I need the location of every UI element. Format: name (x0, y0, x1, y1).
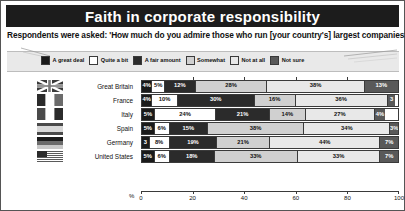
segment-value: 15% (183, 126, 195, 132)
bar-segment: 33% (215, 151, 298, 162)
top-axis-tick (244, 77, 245, 80)
bar-segment: 4% (375, 109, 385, 120)
table-row: 5%6%18%33%33%7% (141, 150, 399, 163)
segment-value: 4% (142, 83, 150, 89)
bar-segment: 21% (216, 109, 270, 120)
top-axis-tick (193, 77, 194, 80)
country-label: France (113, 97, 133, 104)
segment-value: 3 (390, 97, 393, 103)
bar-segment: 30% (178, 95, 255, 106)
bar-segment: 36% (296, 95, 388, 106)
bar-rows: 4%5%12%28%38%13%4%10%30%16%36%35%24%21%1… (141, 80, 399, 165)
segment-value: 5% (144, 112, 152, 118)
country-label-row: Italy (1, 108, 137, 121)
table-row: 5%6%15%38%34%3% (141, 122, 399, 135)
segment-value: 16% (269, 97, 281, 103)
bar-segment: 3 (142, 137, 150, 148)
segment-value: 5% (154, 83, 162, 89)
segment-value: 10% (159, 97, 171, 103)
bar-segment: 5% (142, 123, 155, 134)
segment-value: 30% (210, 97, 222, 103)
bar-segment: 33% (298, 151, 381, 162)
segment-value: 5% (144, 126, 152, 132)
country-label-row: France (1, 94, 137, 107)
segment-value: 36% (335, 97, 347, 103)
segment-value: 7% (385, 154, 393, 160)
legend-item: Somewhat (186, 56, 225, 65)
bar-segment: 5% (152, 81, 165, 92)
bar-segment: 19% (170, 137, 218, 148)
bar-segment: 5% (142, 109, 155, 120)
legend-item: Quite a bit (89, 56, 128, 65)
table-row: 38%19%21%44%7% (141, 136, 399, 149)
legend-item: Not at all (230, 56, 265, 65)
segment-value: 21% (237, 140, 249, 146)
legend: A great dealQuite a bitA fair amountSome… (41, 53, 304, 67)
country-label-column: Great BritainFranceItalySpainGermanyUnit… (1, 80, 137, 165)
bar-segment: 27% (306, 109, 375, 120)
bar-segment: 7% (380, 137, 398, 148)
bar-segment: 3% (390, 123, 398, 134)
bar-segment: 7% (380, 151, 398, 162)
segment-value: 7% (385, 140, 393, 146)
segment-value: 19% (187, 140, 199, 146)
country-label: Germany (107, 139, 133, 146)
chart-page: Faith in corporate responsibility Respon… (0, 0, 405, 211)
segment-value: 3 (144, 140, 147, 146)
axis-tick-label: 100 (394, 195, 404, 201)
segment-value: 33% (333, 154, 345, 160)
segment-value: 18% (186, 154, 198, 160)
bar-segment: 4% (142, 81, 152, 92)
segment-value: 5% (144, 154, 152, 160)
axis-tick-label: 60 (292, 195, 299, 201)
bar-segment: 16% (255, 95, 296, 106)
legend-swatch-icon (89, 56, 98, 65)
bar-segment: 12% (165, 81, 196, 92)
bar-segment: 21% (217, 137, 270, 148)
segment-value: 38% (250, 126, 262, 132)
bar-segment: 24% (155, 109, 216, 120)
decorative-swoosh-right (338, 49, 398, 65)
legend-swatch-icon (133, 56, 142, 65)
bar-segment: 34% (304, 123, 390, 134)
axis-tick-label: 80 (344, 195, 351, 201)
bar-segment: 28% (196, 81, 268, 92)
title-bar: Faith in corporate responsibility (6, 5, 399, 27)
segment-value: 6% (158, 126, 166, 132)
table-row: 5%24%21%14%27%4% (141, 108, 399, 121)
bar-segment: 15% (170, 123, 208, 134)
plot-area: 4%5%12%28%38%13%4%10%30%16%36%35%24%21%1… (141, 80, 399, 190)
legend-swatch-icon (270, 56, 279, 65)
legend-swatch-icon (230, 56, 239, 65)
segment-value: 34% (341, 126, 353, 132)
country-label: Great Britain (97, 83, 133, 90)
table-row: 4%5%12%28%38%13% (141, 80, 399, 93)
legend-label: Quite a bit (101, 57, 128, 63)
axis-tick-label: 40 (241, 195, 248, 201)
bar-segment: 14% (270, 109, 306, 120)
segment-value: 3% (390, 126, 398, 132)
country-label-row: United States (1, 150, 137, 163)
bar-segment: 18% (170, 151, 215, 162)
top-axis-tick (347, 77, 348, 80)
segment-value: 21% (237, 112, 249, 118)
country-label-row: Germany (1, 136, 137, 149)
top-axis-tick (296, 77, 297, 80)
segment-value: 6% (157, 154, 165, 160)
bar-segment: 5% (142, 151, 155, 162)
segment-value: 13% (376, 83, 388, 89)
table-row: 4%10%30%16%36%3 (141, 94, 399, 107)
bar-segment: 4% (142, 95, 152, 106)
country-label: Italy (121, 111, 133, 118)
segment-value: 38% (310, 83, 322, 89)
legend-item: A great deal (41, 56, 84, 65)
legend-swatch-icon (41, 56, 50, 65)
legend-label: Somewhat (197, 57, 225, 63)
legend-swatch-icon (186, 56, 195, 65)
country-label: United States (95, 153, 133, 160)
segment-value: 27% (334, 112, 346, 118)
page-title: Faith in corporate responsibility (85, 8, 320, 25)
legend-label: A great deal (53, 57, 85, 63)
bar-segment: 6% (155, 151, 170, 162)
bar-segment: 3 (388, 95, 396, 106)
